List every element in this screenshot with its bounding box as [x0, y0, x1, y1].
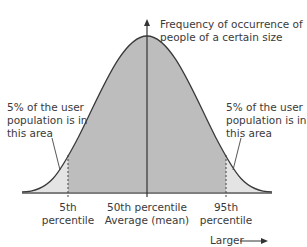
y-axis-label-line2: people of a certain size: [160, 31, 303, 44]
left-leader-line: [52, 138, 60, 170]
left-annotation-line3: this area: [7, 127, 88, 140]
tick-p50-line2: Average (mean): [102, 214, 192, 227]
right-annotation-line1: 5% of the user: [226, 101, 307, 114]
right-annotation: 5% of the user population is in this are…: [226, 101, 307, 140]
left-annotation-line2: population is in: [7, 114, 88, 127]
tick-p95-line2: percentile: [196, 214, 256, 227]
larger-direction-label: Larger: [210, 234, 244, 247]
tick-p5-line1: 5th: [38, 201, 98, 214]
tick-label-p95: 95th percentile: [196, 201, 256, 227]
right-leader-line: [233, 138, 241, 170]
larger-arrow-icon: [261, 238, 268, 244]
tick-p5-line2: percentile: [38, 214, 98, 227]
left-annotation-line1: 5% of the user: [7, 101, 88, 114]
y-axis-label: Frequency of occurrence of people of a c…: [160, 18, 303, 44]
tick-p50-line1: 50th percentile: [102, 201, 192, 214]
tick-label-p50: 50th percentile Average (mean): [102, 201, 192, 227]
y-axis-arrow-icon: [144, 19, 150, 26]
left-annotation: 5% of the user population is in this are…: [7, 101, 88, 140]
right-annotation-line2: population is in: [226, 114, 307, 127]
y-axis-label-line1: Frequency of occurrence of: [160, 18, 303, 31]
right-annotation-line3: this area: [226, 127, 307, 140]
tick-p95-line1: 95th: [196, 201, 256, 214]
tick-label-p5: 5th percentile: [38, 201, 98, 227]
